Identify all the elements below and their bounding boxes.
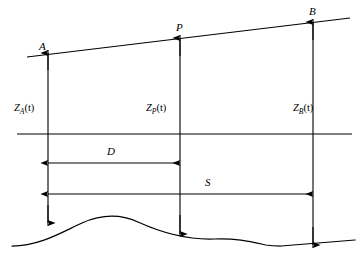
elevation-base-zb: Z: [293, 102, 299, 113]
elevation-subscript-zb: B: [299, 107, 304, 116]
elevation-subscript-za: A: [20, 107, 25, 116]
elevation-label-zb: ZB(t): [293, 103, 313, 114]
elevation-base-zp: Z: [146, 102, 152, 113]
diagram-canvas: [0, 0, 361, 261]
point-label-p: P: [176, 22, 183, 33]
elevation-subscript-zp: P: [152, 107, 157, 116]
dimension-label-d: D: [107, 146, 115, 157]
point-label-b: B: [309, 6, 316, 17]
dimension-label-s: S: [205, 177, 211, 188]
elevation-arg-zp: (t): [156, 102, 166, 113]
elevation-arg-zb: (t): [303, 102, 313, 113]
terrain-elevation-diagram: A P B ZA(t) ZP(t) ZB(t) D S: [0, 0, 361, 261]
slope-line: [27, 18, 350, 57]
point-label-a: A: [39, 41, 46, 52]
elevation-label-zp: ZP(t): [146, 103, 166, 114]
elevation-base-za: Z: [14, 102, 20, 113]
elevation-label-za: ZA(t): [14, 103, 34, 114]
elevation-arg-za: (t): [24, 102, 34, 113]
terrain-profile-curve: [12, 216, 355, 246]
